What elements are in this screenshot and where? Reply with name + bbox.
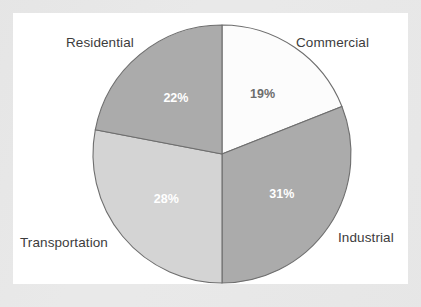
category-label-residential: Residential <box>66 35 134 50</box>
percent-label-commercial: 19% <box>250 87 275 101</box>
pie-chart-figure: 19% 31% 28% 22% Residential Commercial T… <box>0 0 421 307</box>
percent-label-transportation: 28% <box>154 192 179 206</box>
category-label-transportation: Transportation <box>20 235 108 250</box>
pie-slice-transportation[interactable] <box>93 130 222 283</box>
chart-plot-area: 19% 31% 28% 22% Residential Commercial T… <box>13 13 408 284</box>
pie-slices <box>93 25 351 283</box>
percent-label-industrial: 31% <box>269 187 294 201</box>
percent-label-residential: 22% <box>163 91 188 105</box>
category-label-commercial: Commercial <box>296 35 369 50</box>
category-label-industrial: Industrial <box>338 230 394 245</box>
